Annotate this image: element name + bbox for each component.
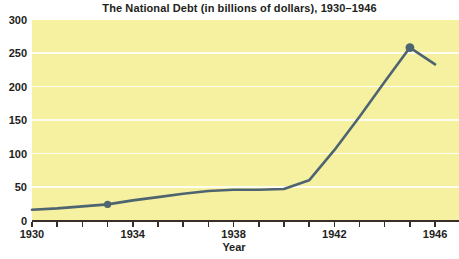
data-point-marker-1945 <box>406 43 415 52</box>
debt-line-series <box>0 0 459 259</box>
debt-line <box>32 48 435 210</box>
data-point-marker-1933 <box>104 201 111 208</box>
national-debt-line-chart: The National Debt (in billions of dollar… <box>0 0 459 259</box>
x-axis-title: Year <box>32 241 436 253</box>
